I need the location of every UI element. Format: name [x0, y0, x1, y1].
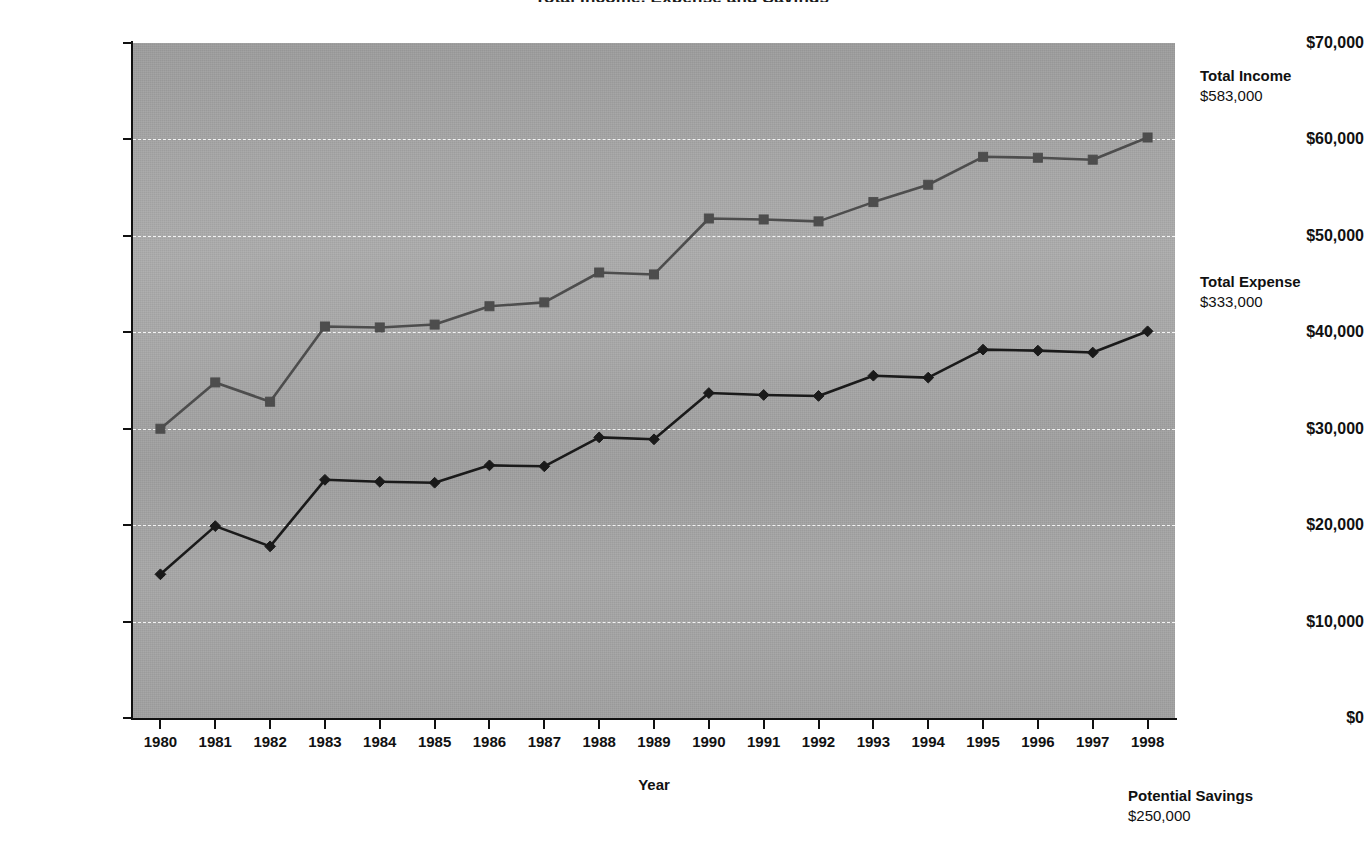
x-axis-tick	[1092, 719, 1094, 729]
x-axis-tick	[1147, 719, 1149, 729]
x-axis-tick	[543, 719, 545, 729]
x-axis-tick	[379, 719, 381, 729]
chart-title: Total Income, Expense and Savings	[0, 0, 1364, 2]
annotation-total-expense-value: $333,000	[1200, 292, 1301, 312]
y-axis-tick-label: $40,000	[1254, 323, 1364, 341]
annotation-total-income-value: $583,000	[1200, 86, 1291, 106]
annotation-total-expense-title: Total Expense	[1200, 272, 1301, 292]
x-axis-tick	[434, 719, 436, 729]
data-point-marker	[650, 270, 659, 279]
x-axis-tick	[708, 719, 710, 729]
x-axis-tick	[1037, 719, 1039, 729]
data-point-marker	[923, 372, 934, 383]
data-point-marker	[156, 424, 165, 433]
x-axis-tick	[653, 719, 655, 729]
data-point-marker	[484, 460, 495, 471]
y-axis-tick-label: $50,000	[1254, 227, 1364, 245]
y-axis-tick	[123, 524, 133, 526]
data-point-marker	[375, 323, 384, 332]
x-axis-tick	[488, 719, 490, 729]
series-total-income	[156, 133, 1152, 433]
data-point-marker	[595, 268, 604, 277]
data-point-marker	[1143, 133, 1152, 142]
data-point-marker	[429, 477, 440, 488]
data-point-marker	[594, 432, 605, 443]
y-axis-tick	[123, 331, 133, 333]
series-total-expense	[155, 326, 1153, 580]
data-point-marker	[540, 298, 549, 307]
annotation-potential-savings-title: Potential Savings	[1128, 786, 1253, 806]
data-point-marker	[320, 322, 329, 331]
y-axis-tick-label: $0	[1254, 709, 1364, 727]
y-axis-tick-label: $10,000	[1254, 613, 1364, 631]
series-line	[160, 331, 1147, 574]
y-axis-tick	[123, 621, 133, 623]
x-axis-tick	[872, 719, 874, 729]
data-point-marker	[374, 476, 385, 487]
y-axis-tick-label: $20,000	[1254, 516, 1364, 534]
annotation-total-income: Total Income $583,000	[1200, 66, 1291, 107]
data-point-marker	[704, 214, 713, 223]
data-point-marker	[1087, 347, 1098, 358]
series-line	[160, 138, 1147, 429]
x-axis-tick	[598, 719, 600, 729]
data-point-marker	[266, 397, 275, 406]
y-axis-tick	[123, 235, 133, 237]
y-axis-tick	[123, 138, 133, 140]
annotation-potential-savings: Potential Savings $250,000	[1128, 786, 1253, 827]
y-axis-tick	[123, 42, 133, 44]
line-chart: Total Income, Expense and Savings $70,00…	[0, 0, 1364, 855]
x-axis-tick	[269, 719, 271, 729]
data-point-marker	[758, 390, 769, 401]
data-point-marker	[814, 217, 823, 226]
data-point-marker	[1032, 345, 1043, 356]
data-point-marker	[539, 461, 550, 472]
y-axis-tick-label: $70,000	[1254, 34, 1364, 52]
x-axis-tick	[324, 719, 326, 729]
annotation-total-expense: Total Expense $333,000	[1200, 272, 1301, 313]
data-point-marker	[430, 320, 439, 329]
data-point-marker	[211, 378, 220, 387]
y-axis-tick	[123, 717, 133, 719]
data-point-marker	[978, 344, 989, 355]
annotation-total-income-title: Total Income	[1200, 66, 1291, 86]
x-axis-tick-label: 1998	[1113, 733, 1183, 750]
y-axis-tick-label: $60,000	[1254, 130, 1364, 148]
y-axis-tick-label: $30,000	[1254, 420, 1364, 438]
data-point-marker	[1088, 155, 1097, 164]
plot-area	[133, 43, 1175, 718]
series-layer	[133, 43, 1175, 718]
data-point-marker	[759, 215, 768, 224]
data-point-marker	[869, 198, 878, 207]
data-point-marker	[868, 370, 879, 381]
annotation-potential-savings-value: $250,000	[1128, 806, 1253, 826]
data-point-marker	[1142, 326, 1153, 337]
data-point-marker	[1033, 153, 1042, 162]
x-axis-tick	[927, 719, 929, 729]
data-point-marker	[485, 302, 494, 311]
x-axis-tick	[214, 719, 216, 729]
data-point-marker	[924, 180, 933, 189]
y-axis-tick	[123, 428, 133, 430]
x-axis-tick	[763, 719, 765, 729]
x-axis-tick	[159, 719, 161, 729]
data-point-marker	[813, 391, 824, 402]
x-axis-title: Year	[133, 776, 1175, 793]
y-axis-line	[131, 41, 133, 720]
x-axis-tick	[818, 719, 820, 729]
x-axis-tick	[982, 719, 984, 729]
data-point-marker	[979, 152, 988, 161]
